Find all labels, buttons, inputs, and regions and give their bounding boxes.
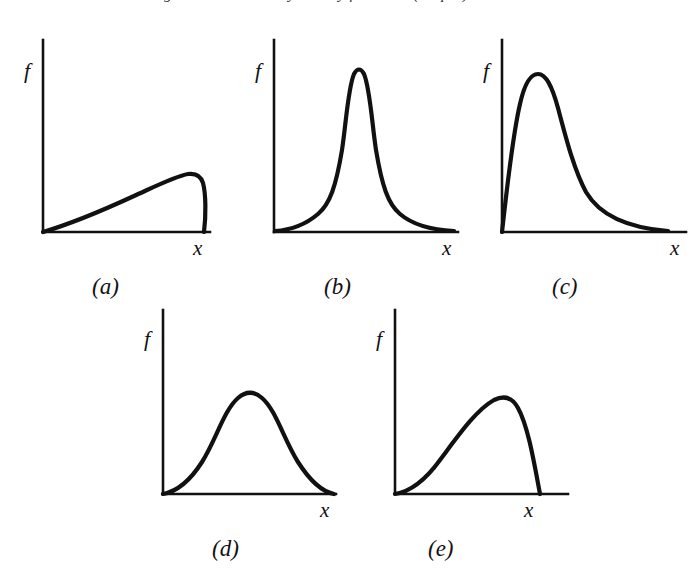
figure-root: Figure 4.4 Probability density functions… xyxy=(0,0,700,578)
panel-a-axis-label-f: f xyxy=(24,60,30,82)
panel-c-axis-label-f: f xyxy=(483,60,489,82)
panel-c: f x (c) xyxy=(490,28,690,240)
panel-a: f x (a) xyxy=(30,28,230,240)
panel-e-caption: (e) xyxy=(428,537,454,560)
panel-b-axis-label-f: f xyxy=(255,60,261,82)
panel-a-curve xyxy=(43,174,205,232)
panel-d-axis-label-f: f xyxy=(144,328,150,350)
panel-d-axis-label-x: x xyxy=(320,500,329,521)
panel-d-caption: (d) xyxy=(212,537,239,560)
panel-d-curve xyxy=(163,393,334,494)
panel-e-plot xyxy=(382,298,582,510)
panel-e-axis-label-x: x xyxy=(524,500,533,521)
panel-d-plot xyxy=(150,298,350,510)
panel-c-axis-label-x: x xyxy=(670,238,679,259)
panel-b-curve xyxy=(275,70,454,232)
panel-e-curve xyxy=(395,397,540,494)
panel-b: f x (b) xyxy=(262,28,462,240)
cropped-figure-caption-text: Figure 4.4 Probability density functions… xyxy=(150,0,468,2)
panel-b-axis-label-x: x xyxy=(442,238,451,259)
panel-e-axis-label-f: f xyxy=(376,328,382,350)
cropped-figure-caption: Figure 4.4 Probability density functions… xyxy=(0,0,700,9)
panel-b-caption: (b) xyxy=(324,275,351,298)
panel-c-plot xyxy=(490,28,690,240)
panel-a-caption: (a) xyxy=(92,275,119,298)
panel-e: f x (e) xyxy=(382,298,582,510)
panel-d: f x (d) xyxy=(150,298,350,510)
panel-a-axis-label-x: x xyxy=(193,238,202,259)
panel-c-curve xyxy=(502,74,668,232)
panel-a-plot xyxy=(30,28,230,240)
panel-c-caption: (c) xyxy=(552,275,578,298)
panel-b-plot xyxy=(262,28,462,240)
